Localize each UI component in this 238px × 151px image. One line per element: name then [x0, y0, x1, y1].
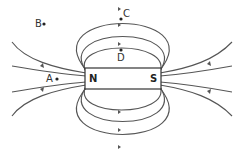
south-pole-label: S	[150, 74, 157, 84]
magnetic-field-diagram: N S A B C D	[0, 0, 238, 151]
point-b-label: B	[35, 19, 42, 29]
north-pole-label: N	[89, 74, 97, 84]
point-b-dot	[42, 22, 45, 25]
point-d-label: D	[117, 53, 125, 63]
point-a-label: A	[46, 74, 53, 84]
point-c-label: C	[123, 9, 130, 19]
point-a-dot	[55, 77, 58, 80]
